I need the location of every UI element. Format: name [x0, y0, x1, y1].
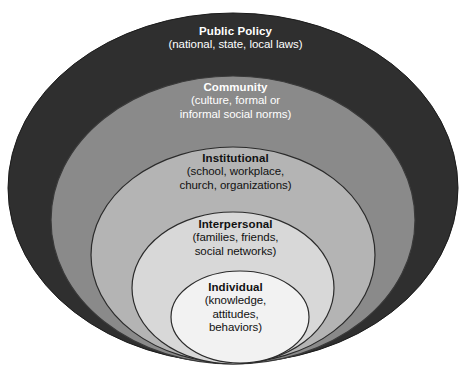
individual-subtitle-line-2: attitudes, — [0, 308, 471, 321]
layer-label-community: Community (culture, formal or informal s… — [0, 81, 471, 121]
community-subtitle-line-1: (culture, formal or — [0, 94, 471, 107]
institutional-title: Institutional — [0, 152, 471, 165]
social-ecological-model-diagram: Public Policy (national, state, local la… — [0, 0, 471, 374]
institutional-subtitle-line-1: (school, workplace, — [0, 165, 471, 178]
community-subtitle-line-2: informal social norms) — [0, 108, 471, 121]
individual-subtitle-line-1: (knowledge, — [0, 294, 471, 307]
interpersonal-subtitle-line-2: social networks) — [0, 245, 471, 258]
public-policy-title: Public Policy — [0, 25, 471, 38]
individual-subtitle-line-3: behaviors) — [0, 321, 471, 334]
interpersonal-title: Interpersonal — [0, 218, 471, 231]
layer-label-institutional: Institutional (school, workplace, church… — [0, 152, 471, 192]
layer-label-public-policy: Public Policy (national, state, local la… — [0, 25, 471, 52]
interpersonal-subtitle-line-1: (families, friends, — [0, 231, 471, 244]
layer-label-interpersonal: Interpersonal (families, friends, social… — [0, 218, 471, 258]
institutional-subtitle-line-2: church, organizations) — [0, 179, 471, 192]
community-title: Community — [0, 81, 471, 94]
layer-label-individual: Individual (knowledge, attitudes, behavi… — [0, 281, 471, 335]
public-policy-subtitle-line-1: (national, state, local laws) — [0, 38, 471, 51]
individual-title: Individual — [0, 281, 471, 294]
